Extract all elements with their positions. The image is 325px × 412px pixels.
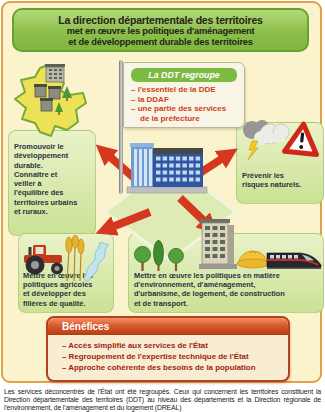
mission-policies-text: Mettre en œuvre les politiques en matièr… (134, 271, 320, 308)
title-box: La direction départementale des territoi… (12, 8, 309, 52)
flag-header: La DDT regroupe (131, 68, 237, 82)
tgv-train-icon (264, 246, 322, 270)
tractor-icon (22, 242, 66, 276)
apartment-building-icon (199, 216, 237, 270)
lightning-icon (248, 141, 258, 160)
cypress-tree-icon (153, 240, 164, 272)
flag-list: – l'essentiel de la DDE – la DDAF – une … (131, 85, 240, 123)
ddt-building-icon (126, 140, 208, 194)
tree-icon (134, 245, 151, 272)
mission-promote-text: Promouvoir le développement durable. Con… (14, 142, 96, 216)
benefits-item: – Regroupement de l'expertise technique … (62, 351, 282, 362)
benefits-title: Bénéfices (48, 318, 288, 335)
wheat-icon (63, 235, 85, 281)
benefits-box: Bénéfices – Accès simplifié aux services… (46, 316, 290, 382)
flag-list-item: – la DDAF (131, 95, 240, 105)
river-icon (84, 242, 110, 282)
page-subtitle-2: et de développement durable des territoi… (14, 37, 307, 48)
warning-triangle-icon (281, 118, 323, 160)
benefits-item: – Approche cohérente des besoins de la p… (62, 362, 282, 373)
ddt-flag-banner: La DDT regroupe – l'essentiel de la DDE … (123, 62, 245, 128)
caption-text: Les services déconcentrés de l'État ont … (4, 388, 321, 412)
flag-list-item: – l'essentiel de la DDE (131, 85, 240, 95)
benefits-list: – Accès simplifié aux services de l'État… (48, 335, 288, 373)
france-map-icon (12, 60, 90, 142)
benefits-item: – Accès simplifié aux services de l'État (62, 340, 282, 351)
tree-icon (168, 247, 184, 272)
flag-list-item: – une partie des services (131, 104, 240, 114)
page-subtitle-1: met en œuvre les politiques d'aménagemen… (14, 26, 307, 37)
flag-list-item: de la préfecture (131, 114, 240, 124)
page-title: La direction départementale des territoi… (14, 14, 307, 26)
mission-prevent-text: Prévenir les risques naturels. (242, 171, 320, 190)
